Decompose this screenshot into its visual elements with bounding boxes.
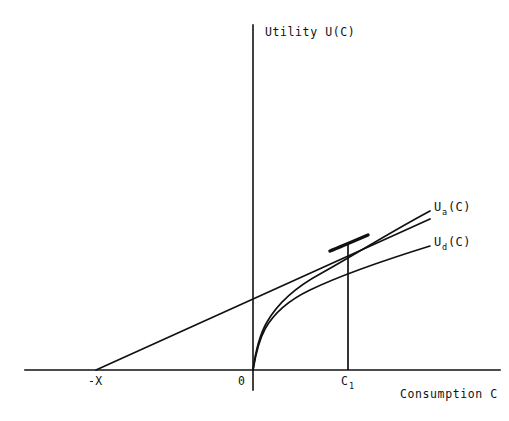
- curve-label-ua-subscript: a: [442, 207, 447, 217]
- tick-label-c1-base: C: [341, 374, 348, 388]
- curve-label-ua-argument: (C): [448, 200, 471, 214]
- curve-label-ud: U d (C): [434, 235, 471, 252]
- origin-tick-label: 0: [238, 374, 245, 388]
- curve-label-ud-base: U: [434, 235, 442, 249]
- x-axis-label: Consumption C: [400, 387, 498, 401]
- utility-function-figure: Utility U(C) Consumption C 0 -X C 1 U a …: [0, 0, 509, 421]
- curve-label-ud-argument: (C): [448, 235, 471, 249]
- y-axis-label: Utility U(C): [265, 25, 355, 39]
- tick-label-c1-subscript: 1: [349, 381, 354, 391]
- curve-ud: [253, 246, 430, 370]
- tangent-budget-line: [96, 219, 430, 370]
- curve-label-ud-subscript: d: [442, 242, 447, 252]
- curve-ua: [253, 211, 430, 370]
- curve-label-ua-base: U: [434, 200, 442, 214]
- tick-label-neg-x: -X: [88, 374, 103, 388]
- curve-label-ua: U a (C): [434, 200, 471, 217]
- tick-label-c1: C 1: [341, 374, 354, 391]
